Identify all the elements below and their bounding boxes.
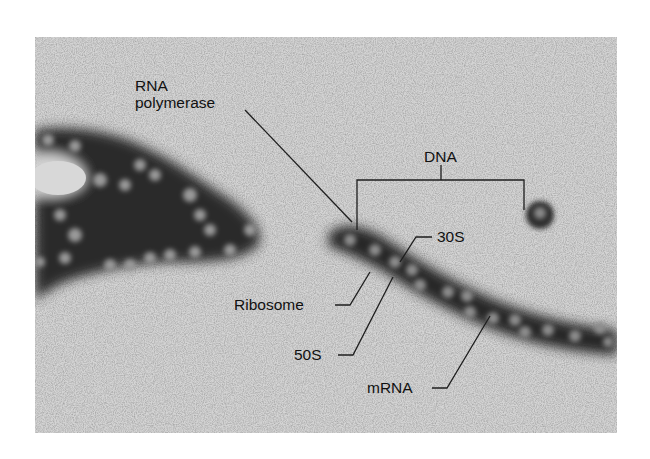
isolated-particle [526,201,554,229]
label-rna-polymerase-line1: RNA [135,77,168,94]
label-50s: 50S [294,346,322,363]
clear-region [30,161,86,195]
label-mrna: mRNA [367,379,413,396]
micrograph-image [30,37,617,433]
label-dna: DNA [424,148,457,165]
label-rna-polymerase-line2: polymerase [135,94,215,111]
label-30s: 30S [437,228,465,245]
label-ribosome: Ribosome [234,296,304,313]
micrograph-figure: RNA polymerase DNA 30S Ribosome 50S mRNA [0,0,650,459]
